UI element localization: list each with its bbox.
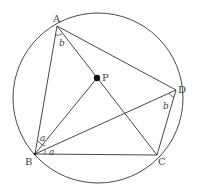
- angle-arc-A: [55, 34, 62, 35]
- label-C: C: [158, 156, 166, 167]
- segment-AD: [57, 26, 176, 90]
- angle-arc-D: [169, 93, 174, 97]
- angle-label-a-lower: a: [49, 147, 54, 157]
- segment-CD: [157, 90, 176, 155]
- angle-label-b-at-D: b: [163, 101, 169, 111]
- label-B: B: [25, 156, 32, 167]
- angle-label-a-upper: a: [40, 133, 45, 143]
- label-D: D: [178, 84, 186, 95]
- diagram-canvas: A B C D P b a a b: [0, 0, 197, 192]
- angle-label-b-at-A: b: [59, 38, 65, 48]
- point-B-dot: [34, 153, 36, 155]
- segment-AB: [35, 26, 57, 154]
- label-A: A: [52, 13, 61, 24]
- segment-AC: [57, 26, 157, 155]
- label-P: P: [102, 72, 109, 83]
- point-P-dot: [94, 75, 100, 81]
- geometry-diagram: A B C D P b a a b: [0, 0, 197, 192]
- segment-BD: [35, 90, 176, 154]
